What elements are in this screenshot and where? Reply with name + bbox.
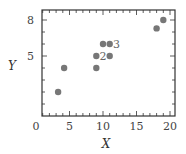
x-tick-label: 15 (130, 120, 144, 133)
point-count-annotation: 2 (100, 50, 107, 63)
data-points (55, 17, 167, 95)
data-point (107, 53, 113, 59)
x-tick-label: 20 (163, 120, 177, 133)
x-tick-label: 5 (66, 120, 73, 133)
data-point (55, 89, 61, 95)
point-count-annotation: 3 (113, 38, 120, 51)
x-tick-label: 10 (96, 120, 110, 133)
data-point (93, 65, 99, 71)
data-point (61, 65, 67, 71)
data-point (100, 41, 106, 47)
scatter-chart: 0510152058 23 X Y (0, 0, 186, 154)
x-axis-label: X (101, 137, 111, 151)
data-point (153, 25, 159, 31)
x-tick-label: 0 (33, 120, 40, 133)
y-tick-label: 5 (27, 50, 34, 63)
y-tick-label: 8 (27, 14, 34, 27)
data-point (160, 17, 166, 23)
y-axis-label: Y (8, 59, 17, 73)
